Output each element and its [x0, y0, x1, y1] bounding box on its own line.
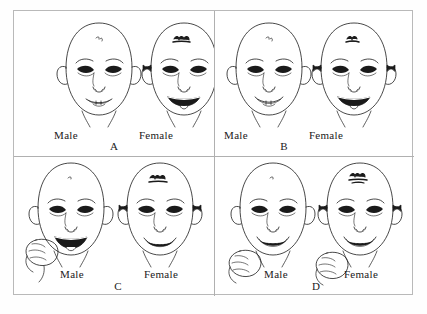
hair-curl-icon: [349, 173, 367, 183]
male-face-a: [57, 23, 141, 127]
bow-right-icon: [393, 205, 401, 211]
label-female-a: Female: [126, 129, 186, 141]
bow-right-icon: [193, 205, 201, 211]
label-male-a: Male: [36, 129, 96, 141]
figure-root: Male Female A: [0, 0, 427, 314]
label-male-d: Male: [246, 268, 306, 280]
panel-letter-b: B: [272, 140, 296, 152]
panel-letter-a: A: [102, 140, 126, 152]
label-female-b: Female: [296, 129, 356, 141]
caption-strip: [16, 303, 396, 312]
panel-a: Male Female A: [14, 11, 214, 156]
label-male-c: Male: [42, 268, 102, 280]
panel-letter-c: C: [106, 280, 130, 292]
male-face-d: [229, 163, 315, 283]
hair-curl-icon: [346, 36, 359, 42]
panel-d: Male Female D: [214, 156, 414, 301]
label-female-c: Female: [131, 268, 191, 280]
bow-left-icon: [313, 65, 321, 71]
female-face-b: [312, 23, 396, 127]
female-face-c: [118, 163, 202, 267]
female-face-a: [142, 23, 214, 127]
label-female-d: Female: [331, 268, 391, 280]
bow-left-icon: [319, 205, 327, 211]
bow-left-icon: [143, 65, 151, 71]
male-face-b: [227, 23, 311, 127]
bow-left-icon: [119, 205, 127, 211]
panel-letter-d: D: [304, 280, 328, 292]
hair-curl-icon: [173, 36, 190, 42]
panel-b: Male Female B: [214, 11, 414, 156]
panel-c: Male Female C: [14, 156, 214, 301]
figure-frame: Male Female A: [13, 10, 413, 295]
female-face-d: [316, 163, 402, 285]
label-male-b: Male: [206, 129, 266, 141]
male-face-c: [26, 163, 113, 282]
hair-curl-icon: [149, 175, 167, 182]
bow-right-icon: [387, 65, 395, 71]
